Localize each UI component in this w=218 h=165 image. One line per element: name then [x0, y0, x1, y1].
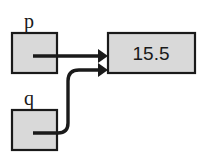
variable-box-p: [12, 33, 57, 73]
variable-label-p: p: [24, 10, 34, 33]
arrow-head-p: [98, 49, 108, 63]
diagram-canvas: p q 15.5: [0, 0, 218, 165]
variable-label-q: q: [24, 87, 34, 110]
pointer-diagram: p q 15.5: [0, 0, 218, 165]
variable-box-q: [12, 110, 57, 150]
value-text: 15.5: [133, 43, 170, 64]
arrow-head-q: [98, 63, 108, 77]
